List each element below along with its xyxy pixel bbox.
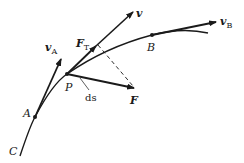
velocity-arrow-p: [96, 12, 133, 46]
label-f-t: FT: [75, 37, 90, 52]
label-a: A: [22, 107, 31, 120]
label-v: v: [136, 7, 143, 20]
tangential-force-arrow: [67, 46, 96, 74]
ds-leader-line: [80, 78, 89, 90]
projection-dashed-line: [98, 45, 133, 86]
label-v-b: vB: [220, 15, 232, 30]
velocity-arrow-a: [35, 59, 61, 117]
label-ds: ds: [85, 92, 97, 103]
diagram-canvas: C A P B vA FT v vB F ds: [0, 0, 244, 163]
label-c: C: [9, 145, 18, 158]
label-p: P: [64, 81, 73, 94]
label-f: F: [129, 94, 139, 107]
point-p-dot: [65, 72, 69, 76]
label-b: B: [146, 41, 155, 54]
point-a-dot: [33, 115, 37, 119]
point-b-dot: [150, 33, 154, 37]
label-v-a: vA: [45, 41, 57, 56]
work-energy-diagram: C A P B vA FT v vB F ds: [0, 0, 244, 163]
force-arrow: [67, 74, 134, 88]
